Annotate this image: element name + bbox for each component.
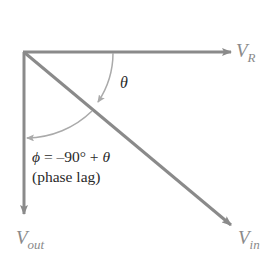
vout-label: Vout <box>16 228 44 247</box>
vin-vector <box>25 53 231 225</box>
theta-label: θ <box>120 75 128 91</box>
phi-arc <box>27 111 92 138</box>
vr-label: VR <box>236 41 256 60</box>
phase-lag-note: (phase lag) <box>32 168 100 186</box>
vin-label: Vin <box>238 228 260 247</box>
phase-equation: ϕ = –90° + θ <box>32 148 110 166</box>
phasor-vectors <box>0 0 268 258</box>
theta-arc <box>98 53 113 102</box>
phasor-diagram: VR θ ϕ = –90° + θ (phase lag) Vout Vin <box>0 0 268 258</box>
